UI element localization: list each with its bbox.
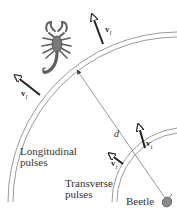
v-transverse-arrow-top — [139, 127, 145, 148]
v-transverse-label-top: vt — [146, 138, 152, 151]
v-longitudinal-arrow-top — [93, 17, 103, 44]
scorpion-icon — [42, 22, 71, 72]
beetle-icon — [160, 194, 173, 209]
transverse-pulse-arc — [112, 128, 177, 202]
v-transverse-label-left: vt — [111, 158, 117, 171]
transverse-label-line2: pulses — [65, 189, 113, 200]
transverse-pulses-label: Transverse pulses — [65, 178, 113, 200]
beetle-label: Beetle — [126, 196, 154, 207]
v-longitudinal-label-top: vl — [105, 24, 111, 37]
longitudinal-label-line2: pulses — [20, 157, 77, 168]
v-longitudinal-label-left: vl — [21, 88, 27, 101]
distance-label: d — [114, 128, 119, 139]
longitudinal-pulses-label: Longitudinal pulses — [20, 146, 77, 168]
